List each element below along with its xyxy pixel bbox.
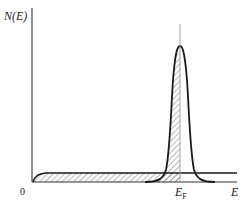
peak-filled-region	[150, 46, 180, 182]
y-axis-label: N(E)	[3, 9, 27, 23]
fermi-label-sub: F	[182, 192, 187, 201]
density-of-states-diagram: N(E) 0 EF E	[0, 0, 246, 207]
origin-label: 0	[20, 186, 25, 197]
x-axis-label: E	[230, 185, 239, 199]
fermi-energy-label: EF	[174, 185, 187, 201]
